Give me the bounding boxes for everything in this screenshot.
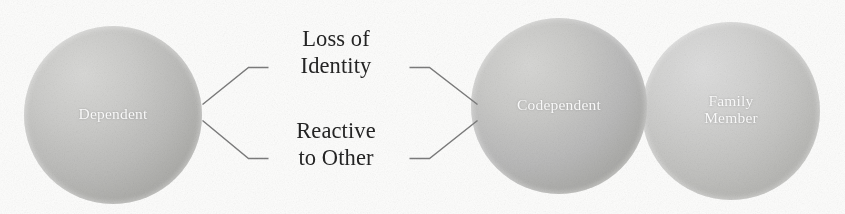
node-family-member-label: Family Member [704, 93, 758, 128]
diagram-canvas: Dependent Codependent Family Member Loss… [0, 0, 845, 214]
node-codependent[interactable]: Codependent [471, 18, 647, 194]
label-loss-of-identity: Loss of Identity [268, 26, 404, 79]
connector-left-upper [203, 68, 269, 105]
label-reactive-to-other: Reactive to Other [263, 118, 409, 171]
connector-left-lower [203, 121, 269, 159]
node-dependent[interactable]: Dependent [24, 26, 202, 204]
connector-right-upper [410, 68, 478, 105]
node-dependent-label: Dependent [79, 106, 148, 125]
connector-right-lower [410, 121, 478, 159]
node-codependent-label: Codependent [517, 97, 601, 116]
node-family-member[interactable]: Family Member [642, 22, 820, 200]
